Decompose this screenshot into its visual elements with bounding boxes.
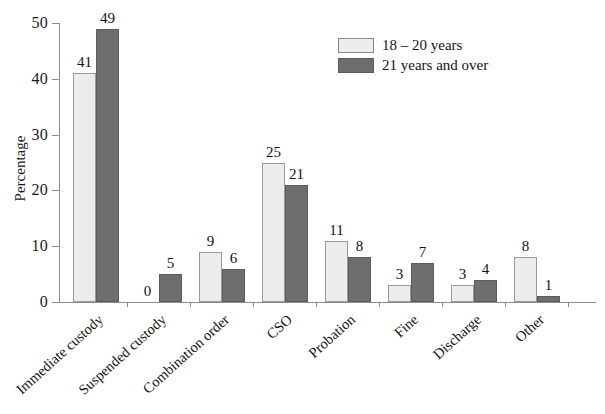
y-tick-0	[52, 302, 59, 303]
bar-value-label: 0	[133, 284, 163, 299]
y-tick-label-20: 20	[8, 182, 48, 198]
bar-value-label: 4	[471, 262, 501, 277]
y-tick-30	[52, 135, 59, 136]
legend-swatch-18-20-years	[338, 38, 374, 53]
bar-light	[73, 73, 96, 302]
bar-group: 4149	[73, 23, 119, 302]
y-tick-label-50: 50	[8, 15, 48, 31]
y-tick-label-10: 10	[8, 238, 48, 254]
bar-value-label: 8	[511, 239, 541, 254]
x-tick-0	[127, 302, 128, 307]
y-tick-40	[52, 79, 59, 80]
x-tick-2	[253, 302, 254, 307]
bar-value-label: 41	[70, 55, 100, 70]
legend-label-18-20-years: 18 – 20 years	[382, 37, 462, 54]
bar-dark	[537, 296, 560, 302]
y-tick-label-30: 30	[8, 127, 48, 143]
x-tick-6	[505, 302, 506, 307]
bar-dark	[411, 263, 434, 302]
bar-light	[451, 285, 474, 302]
bar-group: 05	[136, 23, 182, 302]
bar-light	[262, 163, 285, 303]
bar-value-label: 49	[93, 11, 123, 26]
x-tick-4	[379, 302, 380, 307]
bar-value-label: 7	[408, 245, 438, 260]
bar-value-label: 3	[385, 267, 415, 282]
plot-area: 414905962521118373481	[60, 23, 596, 302]
bar-value-label: 9	[196, 234, 226, 249]
bar-value-label: 21	[282, 167, 312, 182]
x-tick-3	[316, 302, 317, 307]
y-tick-50	[52, 23, 59, 24]
bar-group: 81	[514, 23, 560, 302]
bar-group: 2521	[262, 23, 308, 302]
bar-dark	[222, 269, 245, 302]
x-tick-7	[568, 302, 569, 307]
bar-chart: Percentage 01020304050 41490596252111837…	[0, 0, 605, 414]
bar-group: 96	[199, 23, 245, 302]
bar-dark	[348, 257, 371, 302]
bar-value-label: 8	[345, 239, 375, 254]
bar-value-label: 25	[259, 145, 289, 160]
bar-value-label: 11	[322, 223, 352, 238]
bar-light	[388, 285, 411, 302]
bar-dark	[285, 185, 308, 302]
y-tick-label-0: 0	[8, 294, 48, 310]
bar-value-label: 6	[219, 251, 249, 266]
y-tick-20	[52, 190, 59, 191]
bar-value-label: 5	[156, 256, 186, 271]
bar-dark	[159, 274, 182, 302]
y-tick-10	[52, 246, 59, 247]
bar-dark	[474, 280, 497, 302]
bar-value-label: 1	[534, 278, 564, 293]
x-axis-line	[59, 302, 596, 303]
x-tick-1	[190, 302, 191, 307]
bar-dark	[96, 29, 119, 302]
y-tick-label-40: 40	[8, 71, 48, 87]
legend-label-21-years-and-over: 21 years and over	[382, 57, 488, 74]
legend-swatch-21-years-and-over	[338, 58, 374, 73]
x-tick-5	[442, 302, 443, 307]
